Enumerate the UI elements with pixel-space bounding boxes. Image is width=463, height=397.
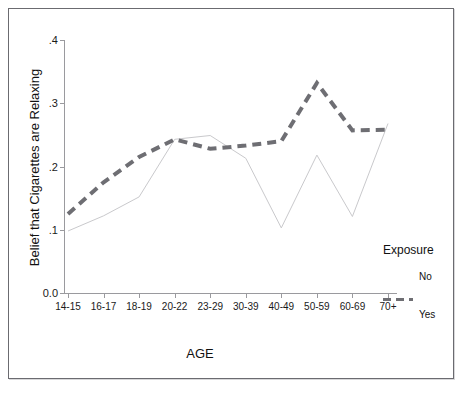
x-tick-mark [246, 294, 247, 298]
y-tick-label: 0.0 [28, 288, 58, 299]
y-tick-label: .4 [28, 35, 58, 46]
legend: Exposure No Yes [383, 243, 459, 328]
legend-item-yes-label[interactable]: Yes [383, 309, 459, 328]
y-tick-label: .1 [28, 225, 58, 236]
series-line-yes [68, 83, 388, 214]
x-tick-mark [352, 294, 353, 298]
x-tick-mark [104, 294, 105, 298]
legend-title: Exposure [383, 243, 459, 257]
legend-item-yes[interactable] [383, 290, 459, 309]
x-tick-mark [210, 294, 211, 298]
series-plot-area [0, 0, 463, 397]
x-tick-mark [175, 294, 176, 298]
legend-item-no[interactable]: No [383, 271, 459, 290]
y-tick-label: .2 [28, 162, 58, 173]
y-tick-label: .3 [28, 98, 58, 109]
x-tick-mark [281, 294, 282, 298]
chart-canvas: Belief that Cigarettes are Relaxing AGE … [0, 0, 463, 397]
x-tick-mark [139, 294, 140, 298]
x-axis-line [64, 293, 397, 294]
legend-swatch-dashed-icon [383, 298, 413, 301]
legend-label-yes: Yes [419, 309, 435, 320]
x-axis-title: AGE [0, 346, 400, 361]
x-tick-mark [317, 294, 318, 298]
x-tick-mark [68, 294, 69, 298]
y-axis-line [64, 40, 65, 294]
series-line-no [68, 124, 388, 232]
legend-label-no: No [419, 271, 432, 282]
